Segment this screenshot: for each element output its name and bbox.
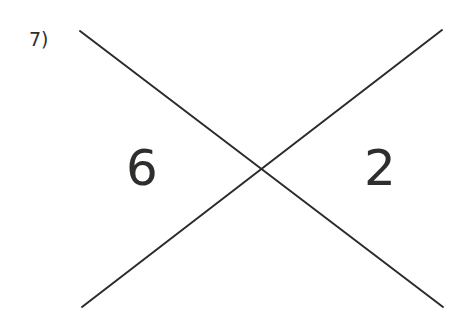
angle-label-left: 6 [126, 143, 158, 193]
geometry-figure-canvas: 7) 6 2 [0, 0, 472, 321]
angle-label-right: 2 [364, 143, 396, 193]
crossing-lines-diagram [0, 0, 472, 321]
problem-number-label: 7) [29, 30, 49, 49]
